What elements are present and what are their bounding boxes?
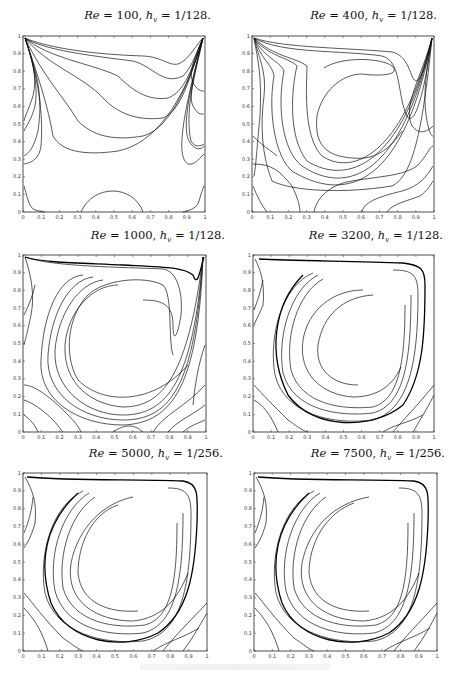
y-tick-label: 0.6 — [243, 322, 251, 328]
x-tick-label: 0 — [21, 653, 24, 659]
y-tick-label: 0.4 — [243, 358, 251, 364]
x-tick-label: 0.2 — [55, 214, 63, 220]
y-tick-label: 0.7 — [242, 85, 250, 91]
x-tick-label: 0.2 — [284, 214, 292, 220]
y-tick-label: 0.1 — [13, 191, 21, 197]
h-value: = 1/256. — [169, 446, 223, 460]
x-tick-label: 0.8 — [165, 434, 173, 440]
y-tick-label: 0.5 — [13, 559, 21, 565]
re-symbol: Re — [310, 8, 325, 22]
y-tick-label: 0.5 — [13, 340, 21, 346]
x-tick-label: 0.6 — [358, 434, 366, 440]
h-value: = 1/128. — [157, 8, 211, 22]
x-tick-label: 0.1 — [37, 653, 45, 659]
y-tick-label: 0 — [249, 648, 252, 654]
plot-re3200: 00.10.20.30.40.50.60.70.80.9100.10.20.30… — [253, 255, 434, 432]
re-value: = 1000, — [106, 228, 160, 242]
x-tick-label: 0.5 — [340, 434, 348, 440]
y-tick-label: 0.5 — [242, 121, 250, 127]
x-tick-label: 0.4 — [323, 653, 331, 659]
plot-re100: 00.10.20.30.40.50.60.70.80.9100.10.20.30… — [23, 36, 205, 212]
x-tick-label: 0.3 — [74, 653, 82, 659]
x-tick-label: 0 — [252, 653, 255, 659]
y-tick-label: 0.9 — [242, 50, 250, 56]
re-value: = 100, — [100, 8, 146, 22]
x-tick-label: 0.2 — [287, 653, 295, 659]
x-tick-label: 0.9 — [185, 653, 193, 659]
y-tick-label: 0.1 — [13, 411, 21, 417]
x-tick-label: 0.7 — [378, 653, 386, 659]
plot-re5000: 00.10.20.30.40.50.60.70.80.9100.10.20.30… — [23, 473, 207, 651]
x-tick-label: 1 — [205, 653, 208, 659]
y-tick-label: 0.9 — [13, 487, 21, 493]
x-tick-label: 0.9 — [183, 214, 191, 220]
x-tick-label: 0.7 — [147, 434, 155, 440]
x-tick-label: 0.9 — [412, 214, 420, 220]
y-tick-label: 0.4 — [13, 138, 21, 144]
x-tick-label: 0.1 — [268, 653, 276, 659]
x-tick-label: 0.5 — [111, 653, 119, 659]
y-tick-label: 0.5 — [13, 121, 21, 127]
x-tick-label: 1 — [435, 653, 438, 659]
x-tick-label: 0.5 — [110, 214, 118, 220]
y-tick-label: 0.2 — [13, 612, 21, 618]
x-tick-label: 0.1 — [266, 214, 274, 220]
x-tick-label: 0.8 — [165, 214, 173, 220]
x-tick-label: 1 — [203, 214, 206, 220]
y-tick-label: 0.2 — [244, 612, 252, 618]
y-tick-label: 0.5 — [243, 340, 251, 346]
y-tick-label: 1 — [18, 470, 21, 476]
x-tick-label: 1 — [432, 434, 435, 440]
x-tick-label: 0.3 — [74, 434, 82, 440]
x-tick-label: 0.5 — [342, 653, 350, 659]
y-tick-label: 0.2 — [242, 173, 250, 179]
x-tick-label: 0.2 — [56, 653, 64, 659]
y-tick-label: 0.7 — [244, 523, 252, 529]
y-tick-label: 0.3 — [13, 594, 21, 600]
x-tick-label: 0.7 — [148, 653, 156, 659]
re-value: = 7500, — [326, 446, 380, 460]
y-tick-label: 0.2 — [13, 393, 21, 399]
x-tick-label: 0.2 — [56, 434, 64, 440]
y-tick-label: 0.1 — [13, 630, 21, 636]
panel-title-re5000: Re = 5000, hv = 1/256. — [89, 446, 223, 462]
y-tick-label: 0.4 — [13, 576, 21, 582]
y-tick-label: 0.2 — [243, 393, 251, 399]
x-tick-label: 0 — [21, 214, 24, 220]
x-tick-label: 0.2 — [285, 434, 293, 440]
x-tick-label: 0.3 — [74, 214, 82, 220]
y-tick-label: 0.1 — [243, 411, 251, 417]
y-tick-label: 0.3 — [13, 375, 21, 381]
y-tick-label: 0.9 — [244, 487, 252, 493]
y-tick-label: 1 — [249, 470, 252, 476]
x-tick-label: 1 — [204, 434, 207, 440]
re-symbol: Re — [89, 446, 104, 460]
y-tick-label: 0.3 — [13, 156, 21, 162]
x-tick-label: 0.3 — [303, 434, 311, 440]
y-tick-label: 0.4 — [13, 358, 21, 364]
x-tick-label: 0.1 — [37, 434, 45, 440]
h-value: = 1/256. — [391, 446, 445, 460]
re-value: = 5000, — [104, 446, 158, 460]
x-tick-label: 0.3 — [305, 653, 313, 659]
panel-title-re100: Re = 100, hv = 1/128. — [84, 8, 211, 24]
x-tick-label: 0.8 — [166, 653, 174, 659]
re-symbol: Re — [84, 8, 99, 22]
y-tick-label: 0 — [18, 209, 21, 215]
y-tick-label: 0.9 — [243, 269, 251, 275]
x-tick-label: 0.6 — [357, 214, 365, 220]
y-tick-label: 0.9 — [13, 269, 21, 275]
x-tick-label: 0.8 — [394, 214, 402, 220]
y-tick-label: 0.7 — [13, 85, 21, 91]
x-tick-label: 0.9 — [184, 434, 192, 440]
x-tick-label: 1 — [432, 214, 435, 220]
panel-title-re7500: Re = 7500, hv = 1/256. — [311, 446, 445, 462]
streamline-plot: 00.10.20.30.40.50.60.70.80.9100.10.20.30… — [23, 36, 205, 212]
plot-re7500: 00.10.20.30.40.50.60.70.80.9100.10.20.30… — [254, 473, 437, 651]
y-tick-label: 0.6 — [244, 541, 252, 547]
x-tick-label: 0.7 — [376, 434, 384, 440]
x-tick-label: 0.4 — [321, 434, 329, 440]
y-tick-label: 0.1 — [242, 191, 250, 197]
x-tick-label: 0.3 — [303, 214, 311, 220]
x-tick-label: 0.4 — [321, 214, 329, 220]
